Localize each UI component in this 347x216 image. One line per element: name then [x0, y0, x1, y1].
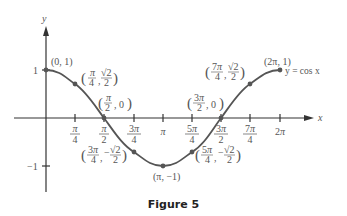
annotation-p1: ( π4 , √22 ) [81, 67, 118, 88]
svg-text:(: ( [81, 70, 86, 87]
svg-text:2: 2 [102, 134, 107, 145]
x-axis-label: x [317, 112, 323, 123]
y-axis-arrow-icon [43, 26, 49, 36]
svg-text:2: 2 [197, 102, 202, 113]
svg-text:5π: 5π [187, 123, 198, 134]
svg-text:(: ( [195, 147, 200, 164]
svg-text:,: , [224, 69, 227, 80]
annotation-p4: (π, −1) [153, 171, 180, 183]
svg-text:(: ( [81, 147, 86, 164]
svg-text:): ) [113, 70, 118, 87]
svg-text:π: π [72, 123, 78, 134]
svg-text:4: 4 [89, 77, 94, 88]
svg-text:2: 2 [227, 154, 232, 165]
figure-caption: Figure 5 [0, 198, 347, 211]
y-axis-label: y [41, 13, 47, 24]
curve-label: y = cos x [285, 66, 320, 76]
svg-text:3π: 3π [216, 123, 227, 134]
svg-text:): ) [122, 147, 127, 164]
svg-text:4: 4 [215, 71, 220, 82]
svg-text:): ) [127, 95, 132, 112]
svg-text:2: 2 [231, 71, 236, 82]
y-tick-1: 1 [33, 65, 38, 76]
svg-text:, 0: , 0 [114, 99, 124, 110]
svg-text:4: 4 [248, 134, 253, 145]
svg-text:2: 2 [105, 102, 110, 113]
svg-text:2: 2 [219, 134, 224, 145]
y-tick-neg1: −1 [27, 161, 38, 172]
svg-text:): ) [240, 64, 245, 81]
svg-text:7π: 7π [245, 123, 256, 134]
x-tick-labels: π4 π2 3π4 π 5π4 3π2 7π4 2π [70, 123, 286, 145]
annotation-p3: ( 3π4 , − √22 ) [81, 144, 127, 165]
svg-text:): ) [236, 147, 241, 164]
svg-text:π: π [101, 123, 107, 134]
annotation-p6: ( 3π2 , 0 ) [187, 92, 224, 113]
svg-text:(: ( [187, 95, 192, 112]
svg-text:3π: 3π [129, 123, 140, 134]
annotation-p5: ( 5π4 , − √22 ) [195, 144, 241, 165]
svg-text:π: π [160, 126, 166, 137]
svg-text:2: 2 [104, 77, 109, 88]
svg-text:2π: 2π [275, 126, 286, 137]
svg-text:4: 4 [205, 154, 210, 165]
svg-text:(: ( [98, 95, 103, 112]
cosine-graph: y x 1 −1 π4 π2 3π4 π 5π4 3π2 7π4 2π (0, … [0, 0, 347, 216]
svg-text:(: ( [205, 64, 210, 81]
svg-text:2: 2 [113, 154, 118, 165]
svg-text:4: 4 [132, 134, 137, 145]
svg-text:4: 4 [190, 134, 195, 145]
x-axis-arrow-icon [304, 115, 314, 121]
svg-text:4: 4 [73, 134, 78, 145]
annotation-p2: ( π2 , 0 ) [98, 92, 132, 113]
svg-text:): ) [219, 95, 224, 112]
annotation-p7: ( 7π4 , √22 ) [205, 61, 245, 82]
svg-text:,: , [214, 152, 217, 163]
svg-text:,: , [100, 152, 103, 163]
annotation-p0: (0, 1) [51, 56, 73, 68]
svg-text:4: 4 [91, 154, 96, 165]
svg-text:, 0: , 0 [206, 99, 216, 110]
